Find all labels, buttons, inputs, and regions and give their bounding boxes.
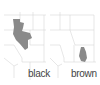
range-shape-brown [79, 47, 87, 62]
map-panel-brown: brown [50, 0, 100, 85]
range-shape-black [13, 19, 32, 50]
panel-label-brown: brown [71, 68, 97, 79]
map-panel-black: black [0, 0, 50, 85]
panel-label-black: black [28, 68, 50, 79]
